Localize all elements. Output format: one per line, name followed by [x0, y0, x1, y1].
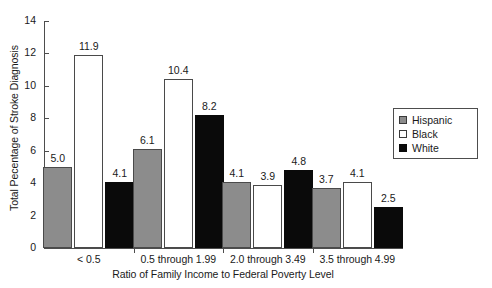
bar-hispanic-group4 [312, 188, 341, 248]
bar-hispanic-group3 [222, 182, 251, 248]
y-axis-tick-label: 10 [24, 79, 36, 92]
legend-swatch-icon [399, 144, 407, 152]
legend-item-label: White [412, 142, 439, 154]
y-axis-tick-label: 14 [24, 14, 36, 27]
x-axis-group-label: 3.5 through 4.99 [297, 253, 417, 265]
y-axis-tick: 0 [0, 248, 44, 249]
legend-item-white: White [399, 141, 472, 154]
legend-swatch-icon [399, 116, 407, 124]
stroke-diagnosis-bar-chart: Total Pecentage of Stroke Diagnosis 0246… [0, 0, 492, 288]
bar-hispanic-group2 [133, 149, 162, 248]
bar-black-group1 [74, 55, 103, 248]
y-axis-tick: 10 [0, 86, 44, 87]
legend-item-hispanic: Hispanic [399, 113, 472, 126]
bar-value-label: 11.9 [68, 40, 109, 52]
bar-white-group1 [105, 182, 134, 248]
y-axis-tick: 12 [0, 53, 44, 54]
bar-value-label: 2.5 [368, 192, 409, 204]
bar-value-label: 6.1 [127, 134, 168, 146]
y-axis-tick: 14 [0, 21, 44, 22]
y-axis-tick-label: 12 [24, 46, 36, 59]
y-axis-tick-label: 8 [30, 111, 36, 124]
x-axis-title: Ratio of Family Income to Federal Povert… [44, 268, 402, 280]
bar-value-label: 5.0 [37, 152, 78, 164]
legend-item-black: Black [399, 127, 472, 140]
y-axis-tick-label: 6 [30, 144, 36, 157]
bar-value-label: 3.9 [247, 170, 288, 182]
y-axis-tick-label: 2 [30, 209, 36, 222]
y-axis-tick: 8 [0, 118, 44, 119]
bar-black-group3 [253, 185, 282, 248]
legend-item-label: Hispanic [412, 114, 452, 126]
y-axis-tick: 2 [0, 216, 44, 217]
bar-value-label: 10.4 [158, 64, 199, 76]
bar-white-group4 [374, 207, 403, 248]
bar-hispanic-group1 [43, 167, 72, 248]
legend-swatch-icon [399, 130, 407, 138]
plot-area: 5.011.94.16.110.48.24.13.94.83.74.12.5 [44, 21, 402, 248]
bar-value-label: 4.8 [278, 155, 319, 167]
y-axis-tick: 4 [0, 183, 44, 184]
bar-value-label: 8.2 [189, 100, 230, 112]
chart-legend: HispanicBlackWhite [393, 108, 478, 159]
bar-value-label: 4.1 [337, 167, 378, 179]
y-axis-title: Total Pecentage of Stroke Diagnosis [8, 0, 22, 258]
legend-item-label: Black [412, 128, 438, 140]
bar-white-group2 [195, 115, 224, 248]
y-axis-tick-label: 4 [30, 176, 36, 189]
